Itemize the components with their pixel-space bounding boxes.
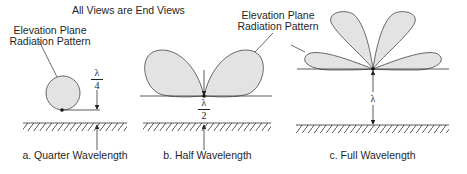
fraction-denominator-b: 2 (202, 110, 207, 121)
pattern-label-a-line2: Radiation Pattern (4, 36, 96, 47)
panel-b-half-wavelength (140, 33, 273, 150)
pattern-label-a: Elevation Plane Radiation Pattern (4, 25, 96, 47)
lobe-left-b (145, 50, 204, 97)
height-fraction-a: λ 4 (91, 68, 103, 91)
lobe-right-b (204, 50, 263, 97)
ground-plane-a (23, 123, 127, 131)
panel-a-quarter-wavelength (23, 41, 127, 150)
height-label-c: λ (367, 94, 379, 104)
ground-plane-c (296, 125, 449, 133)
fraction-numerator-a: λ (95, 67, 100, 78)
fraction-numerator-b: λ (202, 97, 207, 108)
caption-c: c. Full Wavelength (310, 150, 435, 161)
radiation-pattern-circle (46, 76, 80, 110)
ground-plane-b (143, 123, 271, 131)
pattern-label-c-line2: Radiation Pattern (228, 21, 328, 32)
caption-a: a. Quarter Wavelength (10, 150, 140, 161)
diagram-title: All Views are End Views (72, 5, 185, 16)
caption-b: b. Half Wavelength (145, 150, 270, 161)
height-fraction-b: λ 2 (198, 98, 210, 121)
fraction-denominator-a: 4 (95, 80, 100, 91)
pattern-label-c: Elevation Plane Radiation Pattern (228, 10, 328, 32)
